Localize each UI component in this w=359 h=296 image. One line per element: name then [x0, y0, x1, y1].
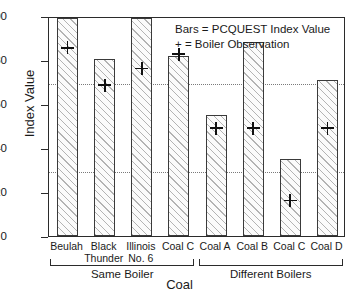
group-bracket	[199, 259, 343, 266]
bar	[131, 18, 152, 236]
x-axis-label: Coal	[0, 277, 359, 292]
bar	[280, 159, 301, 236]
y-axis-label: Index Value	[22, 44, 37, 164]
group-bracket	[50, 259, 194, 266]
bar	[57, 18, 78, 236]
y-tick-label: 40	[0, 143, 7, 155]
legend-entry: + = Boiler Observation	[175, 37, 330, 52]
chart-legend: Bars = PCQUEST Index Value+ = Boiler Obs…	[175, 22, 330, 52]
bar	[317, 80, 338, 236]
x-tick-label: Coal D	[296, 241, 356, 253]
y-tick-label: 0	[0, 231, 7, 243]
y-tick-mark	[41, 193, 48, 194]
y-tick-mark	[41, 61, 48, 62]
bar	[168, 56, 189, 236]
chart-figure: Index Value 020406080100 Bars = PCQUEST …	[0, 0, 359, 296]
x-tick-label-line1: Coal D	[310, 240, 342, 252]
y-tick-label: 20	[0, 187, 7, 199]
y-tick-label: 60	[0, 99, 7, 111]
y-tick-mark	[41, 149, 48, 150]
y-tick-mark	[41, 237, 48, 238]
y-tick-mark	[41, 105, 48, 106]
bar	[243, 42, 264, 236]
y-tick-label: 80	[0, 55, 7, 67]
y-tick-mark	[41, 17, 48, 18]
y-tick-label: 100	[0, 11, 7, 23]
bar	[94, 59, 115, 236]
legend-entry: Bars = PCQUEST Index Value	[175, 22, 330, 37]
bar	[206, 115, 227, 236]
